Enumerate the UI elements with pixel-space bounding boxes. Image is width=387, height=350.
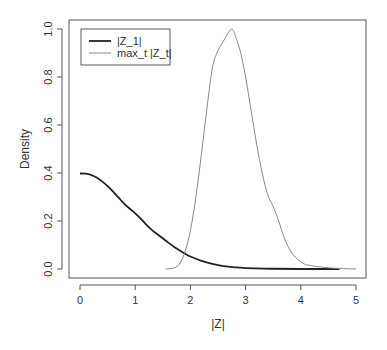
density-chart: 0.00.20.40.60.81.0 012345 |Z| Density |Z… (0, 0, 387, 350)
x-axis: 012345 (77, 285, 359, 306)
y-tick-label: 0.2 (42, 213, 54, 228)
x-tick-label: 2 (187, 294, 193, 306)
y-tick-label: 0.4 (42, 165, 54, 180)
legend: |Z_1| max_t |Z_t| (81, 29, 172, 65)
x-tick-label: 1 (132, 294, 138, 306)
x-tick-label: 5 (353, 294, 359, 306)
y-axis-label: Density (18, 129, 32, 169)
y-tick-label: 0.6 (42, 117, 54, 132)
series-line-1 (166, 29, 356, 269)
y-tick-label: 0.0 (42, 261, 54, 276)
y-tick-label: 0.8 (42, 69, 54, 84)
x-tick-label: 4 (298, 294, 304, 306)
series-line-0 (80, 173, 339, 269)
x-tick-label: 0 (77, 294, 83, 306)
x-tick-label: 3 (243, 294, 249, 306)
y-axis: 0.00.20.40.60.81.0 (42, 21, 62, 276)
x-axis-label: |Z| (211, 317, 225, 331)
legend-label-z1: |Z_1| (117, 35, 142, 47)
legend-label-maxzt: max_t |Z_t| (117, 47, 172, 59)
y-tick-label: 1.0 (42, 21, 54, 36)
